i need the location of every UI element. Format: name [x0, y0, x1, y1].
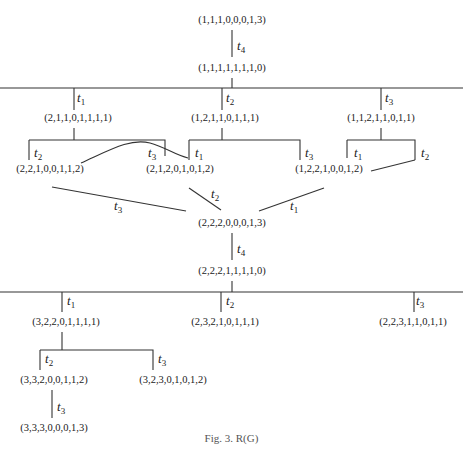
transition-label: t2: [226, 90, 234, 107]
transition-label: t1: [67, 293, 75, 310]
marking-node-n4: (1,1,2,1,1,0,1,1): [347, 112, 415, 124]
figure-caption: Fig. 3. R(G): [0, 432, 463, 444]
transition-label: t1: [77, 90, 85, 107]
transition-label: t3: [158, 351, 167, 368]
transition-label: t1: [290, 198, 298, 215]
transition-label: t3: [148, 145, 157, 162]
marking-node-n13: (3,3,2,0,0,1,1,2): [20, 374, 88, 386]
transition-label: t2: [421, 145, 429, 162]
graph-nodes: (1,1,1,0,0,0,1,3)(1,1,1,1,1,1,1,0)(2,1,1…: [16, 14, 447, 434]
transition-label: t4: [237, 241, 246, 258]
transition-label: t2: [34, 145, 42, 162]
reachability-graph: (1,1,1,0,0,0,1,3)(1,1,1,1,1,1,1,0)(2,1,1…: [0, 0, 463, 456]
transition-label: t1: [354, 145, 362, 162]
transition-label: t4: [237, 38, 246, 55]
transition-label: t3: [305, 145, 314, 162]
marking-node-n14: (3,2,3,0,1,0,1,2): [139, 374, 207, 386]
marking-node-n9: (2,2,2,1,1,1,1,0): [198, 265, 266, 277]
marking-node-n1: (1,1,1,1,1,1,1,0): [198, 62, 266, 74]
marking-node-n6: (2,1,2,0,1,0,1,2): [146, 163, 214, 175]
marking-node-n5: (2,2,1,0,0,1,1,2): [16, 163, 84, 175]
marking-node-n12: (2,2,3,1,1,0,1,1): [379, 316, 447, 328]
transition-label: t2: [211, 186, 219, 203]
marking-node-n2: (2,1,1,0,1,1,1,1): [44, 112, 112, 124]
edge-line: [371, 160, 415, 171]
marking-node-n0: (1,1,1,0,0,0,1,3): [198, 14, 266, 26]
edge-line: [81, 142, 188, 163]
edge-line: [40, 350, 153, 370]
transition-label: t2: [226, 293, 234, 310]
marking-node-n11: (2,3,2,1,0,1,1,1): [191, 316, 259, 328]
transition-label: t3: [385, 90, 394, 107]
marking-node-n3: (1,2,1,1,0,1,1,1): [191, 112, 259, 124]
marking-node-n10: (3,2,2,0,1,1,1,1): [32, 316, 100, 328]
edge-line: [189, 140, 300, 160]
transition-label: t2: [45, 351, 53, 368]
transition-label: t3: [416, 293, 425, 310]
marking-node-n7: (1,2,2,1,0,0,1,2): [295, 163, 363, 175]
marking-node-n8: (2,2,2,0,0,0,1,3): [198, 217, 266, 229]
transition-label: t3: [57, 399, 66, 416]
transition-label: t1: [195, 145, 203, 162]
transition-label: t3: [114, 198, 123, 215]
